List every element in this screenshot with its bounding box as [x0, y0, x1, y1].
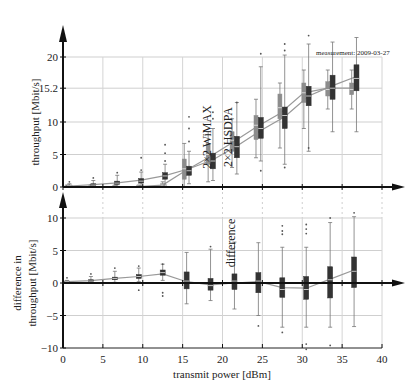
difference-box: [352, 217, 357, 327]
difference-box: [256, 243, 261, 316]
difference-outlier: [90, 273, 92, 275]
bottom-y-axis-label-line2: throughput [Mbit/s]: [26, 239, 38, 326]
difference-outlier: [281, 225, 283, 227]
top-y-tick-label: 20: [47, 51, 59, 63]
box: [258, 117, 263, 138]
top-x-axis-arrow: [392, 184, 405, 191]
tick-labels: 051015.220−10−505100510152025303540: [39, 51, 388, 365]
difference-outlier: [138, 265, 140, 267]
difference-outlier: [162, 292, 164, 294]
hsdpa-outlier: [308, 147, 310, 149]
axes: [59, 25, 405, 348]
top-y-axis-label: throughput [Mbit/s]: [29, 78, 41, 165]
panel-link-lines: [103, 187, 382, 218]
x-tick-label: 40: [377, 353, 389, 365]
difference-outlier: [353, 212, 355, 214]
box: [208, 278, 213, 290]
hsdpa-outlier: [284, 43, 286, 45]
hsdpa-box: [187, 151, 192, 184]
hsdpa-outlier: [260, 53, 262, 55]
bottom-y-tick-label: 0: [53, 277, 59, 289]
hsdpa-outlier: [116, 172, 118, 174]
difference-outlier: [257, 325, 259, 327]
difference-outlier: [162, 263, 164, 265]
wimax-box: [254, 99, 258, 158]
difference-outlier: [66, 277, 68, 279]
wimax-box: [278, 83, 282, 148]
difference-outlier: [162, 295, 164, 297]
box: [184, 272, 189, 289]
difference-outlier: [305, 233, 307, 235]
box: [232, 274, 237, 290]
x-tick-label: 35: [337, 353, 349, 365]
hsdpa-outlier: [188, 116, 190, 118]
x-tick-label: 25: [257, 353, 269, 365]
box-plots: [64, 35, 358, 351]
hsdpa-box: [282, 55, 287, 164]
difference-outlier: [305, 224, 307, 226]
x-tick-label: 5: [100, 353, 106, 365]
difference-outlier: [281, 332, 283, 334]
hsdpa-box: [234, 103, 239, 175]
hsdpa-outlier: [236, 102, 238, 104]
box: [304, 277, 309, 300]
hsdpa-outlier: [188, 128, 190, 130]
top-y-tick-label: 15.2: [39, 82, 58, 94]
x-axis-label: transmit power [dBm]: [173, 368, 271, 380]
top-y-axis-arrow: [59, 25, 67, 42]
hsdpa-outlier: [92, 177, 94, 179]
difference-outlier: [329, 345, 331, 347]
hsdpa-outlier: [164, 152, 166, 154]
difference-outlier: [281, 230, 283, 232]
difference-box: [112, 271, 117, 282]
difference-outlier: [114, 267, 116, 269]
box: [326, 82, 330, 96]
bottom-y-axis-label-line1: difference in: [11, 255, 23, 311]
bottom-x-axis-arrow: [392, 280, 405, 287]
bottom-y-tick-label: 5: [53, 245, 59, 257]
wimax-box: [326, 70, 330, 109]
difference-outlier: [305, 343, 307, 345]
difference-outlier: [329, 217, 331, 219]
hsdpa-outlier: [260, 170, 262, 172]
bottom-y-tick-label: −5: [46, 310, 58, 322]
top-y-tick-label: 0: [53, 181, 59, 193]
difference-outlier: [305, 348, 307, 350]
box: [254, 116, 258, 140]
hsdpa-outlier: [140, 169, 142, 171]
x-tick-label: 15: [177, 353, 189, 365]
difference-outlier: [305, 228, 307, 230]
hsdpa-label: 2×2 HSDPA: [221, 107, 235, 167]
wimax-label: 2×2 WiMAX: [200, 105, 214, 169]
hsdpa-box: [306, 44, 311, 151]
difference-outlier: [281, 233, 283, 235]
top-y-tick-label: 5: [53, 149, 59, 161]
box: [350, 83, 354, 95]
difference-box: [184, 252, 189, 303]
x-tick-label: 30: [297, 353, 309, 365]
box: [330, 75, 335, 99]
box: [278, 94, 282, 119]
bottom-y-tick-label: −10: [41, 342, 59, 354]
hsdpa-outlier: [284, 50, 286, 52]
difference-outlier: [210, 246, 212, 248]
difference-box: [328, 223, 333, 328]
box: [280, 278, 285, 298]
hsdpa-outlier: [164, 144, 166, 146]
hsdpa-outlier: [140, 157, 142, 159]
difference-box: [136, 268, 141, 282]
hsdpa-outlier: [308, 35, 310, 37]
chart-canvas: 051015.220−10−505100510152025303540 thro…: [0, 0, 419, 392]
chart-figure: 051015.220−10−505100510152025303540 thro…: [0, 0, 419, 392]
box: [354, 65, 359, 91]
box: [282, 107, 287, 128]
hsdpa-outlier: [188, 141, 190, 143]
wimax-box: [350, 70, 354, 109]
difference-outlier: [138, 289, 140, 291]
hsdpa-outlier: [68, 181, 70, 183]
bottom-y-tick-label: 10: [47, 212, 59, 224]
x-tick-label: 20: [217, 353, 229, 365]
difference-label: difference: [224, 219, 238, 267]
top-y-tick-label: 10: [47, 116, 59, 128]
measurement-date: measurement: 2009-03-27: [316, 49, 390, 57]
